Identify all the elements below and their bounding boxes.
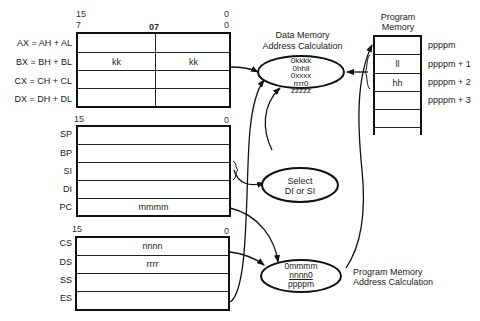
bit-0-label: 0 bbox=[224, 226, 229, 236]
bit-15-label: 15 bbox=[74, 114, 84, 124]
bit-0-label: 0 bbox=[224, 115, 229, 125]
register-row-di bbox=[78, 181, 229, 199]
title-line-2: Address Calculation bbox=[353, 277, 433, 287]
register-row-cx bbox=[78, 71, 229, 89]
register-row-bp bbox=[78, 145, 229, 163]
reg-label-bp: BP bbox=[0, 148, 72, 158]
pointer-register-box: mmmm bbox=[76, 125, 231, 217]
memory-cell bbox=[375, 37, 420, 55]
data-memory-calc-title: Data Memory Address Calculation bbox=[255, 30, 350, 52]
title-line-2: Address Calculation bbox=[255, 41, 350, 52]
bit-7-label: 7 bbox=[76, 20, 81, 30]
title-line-1: Program bbox=[372, 12, 424, 22]
reg-label-ax: AX = AH + AL bbox=[0, 38, 72, 48]
bit-15-label: 15 bbox=[72, 224, 82, 234]
select-node: Select DI or SI bbox=[262, 176, 338, 196]
program-memory-calc-values: 0mmmm nnnn0 ppppm bbox=[276, 262, 326, 289]
reg-label-es: ES bbox=[0, 293, 72, 303]
address-label: ppppm + 3 bbox=[428, 95, 471, 105]
title-line-1: Data Memory bbox=[255, 30, 350, 41]
select-line-2: DI or SI bbox=[262, 186, 338, 196]
reg-label-cx: CX = CH + CL bbox=[0, 76, 72, 86]
title-line-1: Program Memory bbox=[353, 267, 433, 277]
register-row-si bbox=[78, 163, 229, 181]
program-memory-calc-title: Program Memory Address Calculation bbox=[353, 267, 433, 287]
calc-result: ppppm bbox=[276, 280, 326, 289]
byte-divider bbox=[155, 34, 156, 106]
register-row-dx bbox=[78, 89, 229, 107]
bit-0-label: 0 bbox=[224, 20, 229, 30]
register-row-ax bbox=[78, 34, 229, 53]
reg-label-dx: DX = DH + DL bbox=[0, 94, 72, 104]
reg-label-ss: SS bbox=[0, 275, 72, 285]
address-label: ppppm + 2 bbox=[428, 77, 471, 87]
address-label: ppppm + 1 bbox=[428, 59, 471, 69]
program-memory-title: Program Memory bbox=[372, 12, 424, 32]
bit-0-label-top: 0 bbox=[224, 9, 229, 19]
select-line-1: Select bbox=[262, 176, 338, 186]
calc-result: zzzzz bbox=[281, 87, 321, 95]
memory-cell bbox=[375, 92, 420, 110]
address-label: ppppm bbox=[428, 40, 456, 50]
memory-cell-ll: ll bbox=[375, 59, 420, 69]
register-row-es bbox=[77, 292, 228, 309]
cs-value: nnnn bbox=[77, 241, 228, 251]
data-memory-calc-values: 0kkkk 0hhll 0xxxx rrrr0 zzzzz bbox=[281, 57, 321, 95]
program-memory-box: ll hh bbox=[373, 35, 422, 135]
bit-15-label: 15 bbox=[76, 9, 86, 19]
segment-register-box: nnnn rrrr bbox=[75, 236, 230, 311]
reg-label-pc: PC bbox=[0, 202, 72, 212]
ds-value: rrrr bbox=[77, 259, 228, 269]
bit-0-7-label: 07 bbox=[149, 22, 159, 32]
memory-cell bbox=[375, 110, 420, 128]
title-line-2: Memory bbox=[372, 22, 424, 32]
general-register-box: kk kk bbox=[76, 32, 231, 108]
reg-label-cs: CS bbox=[0, 238, 72, 248]
register-row-ss bbox=[77, 274, 228, 292]
reg-label-bx: BX = BH + BL bbox=[0, 57, 72, 67]
bl-value: kk bbox=[156, 57, 231, 67]
reg-label-di: DI bbox=[0, 184, 72, 194]
reg-label-si: SI bbox=[0, 166, 72, 176]
bh-value: kk bbox=[78, 57, 155, 67]
pc-value: mmmm bbox=[78, 202, 229, 212]
reg-label-sp: SP bbox=[0, 129, 72, 139]
memory-cell-hh: hh bbox=[375, 78, 420, 88]
register-row-sp bbox=[78, 127, 229, 145]
reg-label-ds: DS bbox=[0, 257, 72, 267]
